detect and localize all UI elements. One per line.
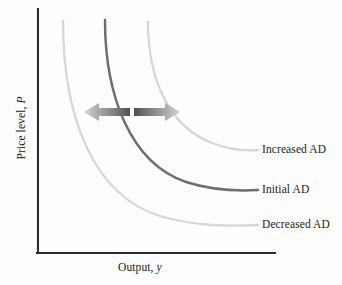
curve-label-decreased-ad: Decreased AD [262, 218, 330, 230]
curve-label-increased-ad: Increased AD [262, 143, 326, 155]
y-axis-label-text: Price level, [15, 104, 27, 160]
rightward-shift-arrow [134, 103, 180, 121]
x-axis-label-variable: y [157, 261, 162, 273]
axes-group [37, 9, 275, 253]
x-axis-label-text: Output, [118, 261, 157, 273]
y-axis-label: Price level, P [15, 88, 27, 168]
curve-decreased-ad [63, 21, 258, 226]
curve-increased-ad [148, 22, 258, 150]
ad-shift-figure: Price level, P Output, y Increased AD In… [0, 0, 342, 285]
shift-arrows-group [84, 103, 180, 121]
y-axis-label-variable: P [15, 96, 27, 103]
x-axis-label: Output, y [118, 261, 162, 273]
curves-group [63, 20, 258, 226]
curve-label-initial-ad: Initial AD [262, 183, 309, 195]
curve-initial-ad [105, 20, 258, 190]
